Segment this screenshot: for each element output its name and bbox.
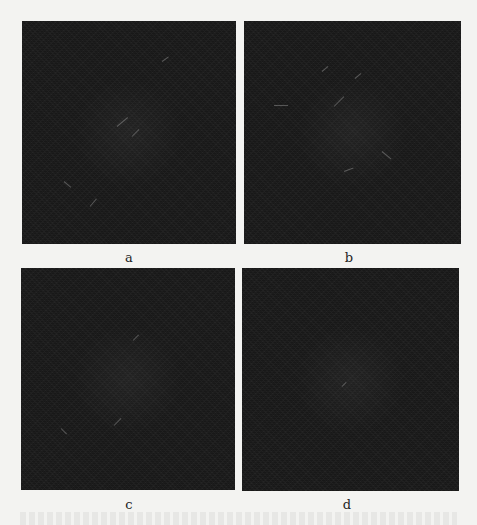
panel-label-a: a: [119, 250, 139, 265]
image-panel-c: [21, 268, 235, 490]
header-fragment: [60, 0, 240, 4]
panel-label-b: b: [339, 250, 359, 265]
image-panel-b: [244, 21, 461, 244]
image-panel-a: [22, 21, 236, 244]
image-panel-d: [242, 268, 459, 491]
bleed-through-text: [20, 512, 457, 525]
panel-label-d: d: [337, 497, 357, 512]
panel-label-c: c: [119, 497, 139, 512]
